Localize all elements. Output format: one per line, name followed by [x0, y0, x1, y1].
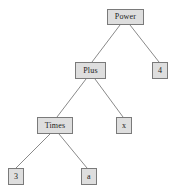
tree-edge-plus-x [95, 79, 123, 117]
tree-edge-plus-times [57, 79, 86, 117]
tree-node-x[interactable]: x [116, 117, 132, 134]
tree-node-plus[interactable]: Plus [75, 62, 106, 79]
tree-node-times[interactable]: Times [37, 117, 73, 134]
tree-node-power[interactable]: Power [107, 9, 144, 25]
tree-edge-times-three [16, 134, 50, 168]
tree-node-plus-label: Plus [83, 66, 98, 74]
tree-node-three-label: 3 [14, 172, 18, 180]
tree-edge-power-four [130, 25, 159, 62]
tree-node-a[interactable]: a [81, 168, 97, 185]
tree-node-a-label: a [87, 172, 91, 180]
tree-edge-power-plus [92, 25, 120, 62]
tree-node-x-label: x [122, 121, 126, 129]
tree-node-times-label: Times [45, 121, 66, 129]
tree-edge-layer [0, 0, 178, 196]
tree-node-power-label: Power [115, 13, 136, 21]
tree-node-three[interactable]: 3 [8, 168, 24, 185]
tree-node-four[interactable]: 4 [152, 62, 168, 79]
tree-node-four-label: 4 [158, 66, 162, 74]
tree-edge-times-a [59, 134, 87, 168]
expression-tree-diagram: Power 4 Plus Times x 3 a [0, 0, 178, 196]
